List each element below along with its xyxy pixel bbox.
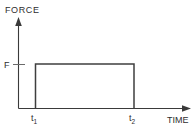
time-t1-label: t1 (31, 113, 38, 125)
x-axis-label: TIME (167, 115, 189, 125)
y-axis-arrowhead (15, 17, 22, 26)
y-axis-label: FORCE (5, 5, 40, 15)
force-pulse-curve (36, 64, 135, 109)
diagram-canvas: FORCE TIME F t1 t2 (0, 0, 196, 129)
force-value-label: F (4, 60, 10, 70)
time-t2-label: t2 (129, 113, 136, 125)
x-axis-arrowhead (182, 105, 191, 112)
time-t2-subscript: 2 (132, 118, 136, 125)
force-time-diagram: FORCE TIME F t1 t2 (0, 0, 196, 129)
time-t1-subscript: 1 (34, 118, 38, 125)
